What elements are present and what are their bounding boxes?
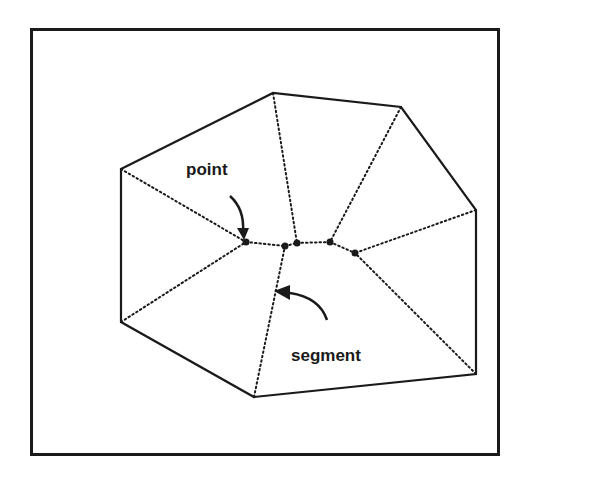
skeleton-point (327, 239, 334, 246)
skeleton-points (243, 239, 359, 257)
segment-line (273, 93, 297, 243)
polygon-skeleton-diagram (0, 0, 591, 484)
segment-line (330, 242, 355, 253)
segment-line (121, 242, 246, 322)
point-arrow-icon (230, 196, 249, 240)
segment-line (246, 242, 285, 246)
segment-label: segment (291, 346, 361, 366)
point-label: point (186, 160, 228, 180)
segment-line (254, 246, 285, 397)
segment-line (355, 210, 476, 253)
skeleton-point (243, 239, 250, 246)
skeleton-point (294, 240, 301, 247)
segment-line (330, 107, 401, 242)
segment-line (297, 242, 330, 243)
skeleton-point (352, 250, 359, 257)
segment-arrow-icon (274, 285, 327, 320)
skeleton-point (282, 243, 289, 250)
segment-line (355, 253, 476, 374)
